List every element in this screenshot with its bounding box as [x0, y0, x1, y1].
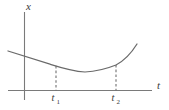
tick-label-t1-subscript: 1 — [57, 98, 61, 106]
horizontal-axis-label: t — [157, 79, 161, 91]
tick-label-t2: t 2 — [112, 92, 121, 106]
tick-label-t2-subscript: 2 — [117, 98, 121, 106]
coordinate-plot: x t t 1 t 2 — [0, 0, 169, 110]
curve-x-of-t — [8, 44, 137, 72]
tick-label-t2-base: t — [112, 92, 116, 103]
vertical-axis-label: x — [25, 0, 31, 12]
figure-container: x t t 1 t 2 — [0, 0, 169, 110]
tick-label-t1: t 1 — [52, 92, 61, 106]
tick-label-t1-base: t — [52, 92, 56, 103]
